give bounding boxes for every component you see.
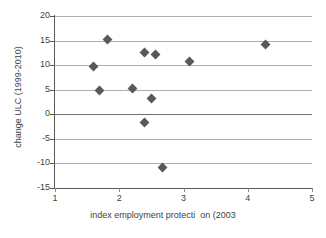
data-point [127,83,137,93]
x-tick-label-4: 4 [238,193,258,203]
y-tick-20 [50,16,55,17]
plot-area [55,16,312,188]
x-tick-label-2: 2 [109,193,129,203]
x-tick-label-5: 5 [302,193,322,203]
data-point [140,118,150,128]
y-tick-label-10: 10 [20,60,50,69]
y-tick-label--5: -5 [20,134,50,143]
gridline-y--10 [55,163,312,164]
y-tick-label-0: 0 [20,109,50,118]
x-tick-3 [184,188,185,192]
x-tick-2 [119,188,120,192]
data-point [89,62,99,72]
y-tick-label--15: -15 [20,183,50,192]
y-tick-label-15: 15 [20,36,50,45]
y-axis-title: change ULC (1999-2010) [13,32,23,162]
x-tick-5 [312,188,313,192]
data-point [150,50,160,60]
y-tick-label-5: 5 [20,85,50,94]
y-tick-label--10: -10 [20,158,50,167]
data-point [102,35,112,45]
x-tick-4 [248,188,249,192]
y-tick-5 [50,90,55,91]
y-tick-15 [50,41,55,42]
y-tick-label-20: 20 [20,11,50,20]
scatter-chart: 20151050-5-10-15 12345 change ULC (1999-… [0,0,326,238]
y-tick-10 [50,65,55,66]
x-axis-title: index employment protecti on (2003 [0,210,326,220]
gridline-y-20 [55,16,312,17]
x-tick-label-3: 3 [174,193,194,203]
data-point [95,85,105,95]
gridline-y-15 [55,41,312,42]
gridline-y-0 [55,114,312,115]
data-point [146,93,156,103]
gridline-y--5 [55,139,312,140]
x-tick-1 [55,188,56,192]
y-tick--10 [50,163,55,164]
data-point [140,48,150,58]
y-tick-0 [50,114,55,115]
y-tick--5 [50,139,55,140]
x-tick-label-1: 1 [45,193,65,203]
